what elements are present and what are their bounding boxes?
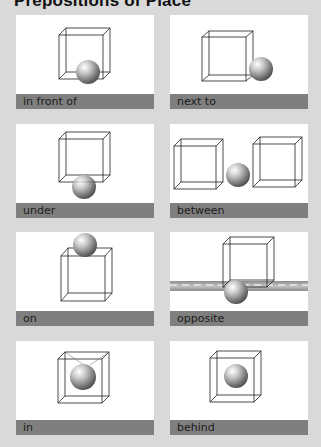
card-label: under xyxy=(16,203,154,218)
cube-with-sphere-under-icon xyxy=(16,124,154,204)
card-between: between xyxy=(170,124,308,218)
card-label: in xyxy=(16,420,154,435)
card-label: on xyxy=(16,311,154,326)
card-in: in xyxy=(16,341,154,435)
card-on: on xyxy=(16,232,154,326)
card-label: opposite xyxy=(170,311,308,326)
card-label: between xyxy=(170,203,308,218)
card-behind: behind xyxy=(170,341,308,435)
cube-with-sphere-in-front-icon xyxy=(16,15,154,95)
card-next-to: next to xyxy=(170,15,308,109)
page-title: Prepositions of Place xyxy=(14,0,191,11)
sphere-behind-cube-icon xyxy=(170,341,308,421)
card-label: in front of xyxy=(16,94,154,109)
sphere-between-cubes-icon xyxy=(170,124,308,204)
sphere-on-cube-icon xyxy=(16,232,154,312)
sphere-in-cube-icon xyxy=(16,341,154,421)
card-in-front-of: in front of xyxy=(16,15,154,109)
card-label: behind xyxy=(170,420,308,435)
cube-with-sphere-next-to-icon xyxy=(170,15,308,95)
card-under: under xyxy=(16,124,154,218)
card-label: next to xyxy=(170,94,308,109)
sphere-opposite-cube-road-icon xyxy=(170,232,308,312)
card-opposite: opposite xyxy=(170,232,308,326)
